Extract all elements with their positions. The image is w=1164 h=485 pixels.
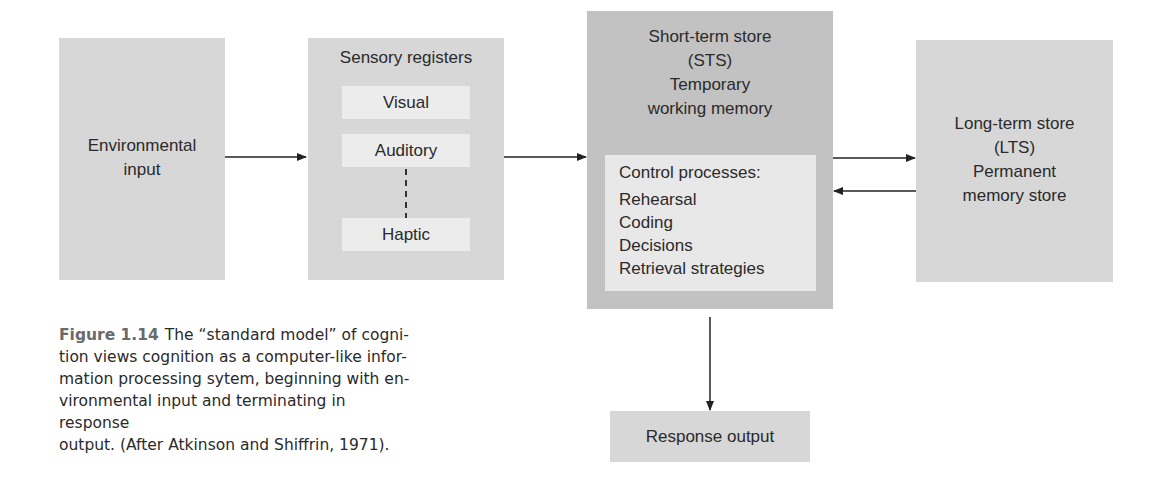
figure-label: Figure 1.14 bbox=[59, 326, 159, 344]
figure-caption: Figure 1.14The “standard model” of cogni… bbox=[59, 324, 419, 456]
